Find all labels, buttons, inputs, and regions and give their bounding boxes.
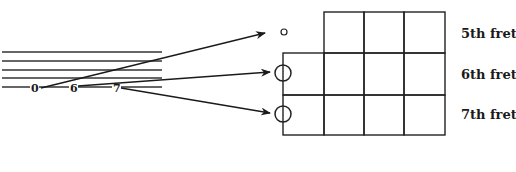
- fret-cell: [404, 95, 445, 135]
- tab-fret-number-6: 6: [70, 82, 78, 95]
- fret-cell: [324, 95, 364, 135]
- fret-label-6th: 6th fret: [461, 67, 516, 82]
- fret-cell: [364, 12, 404, 53]
- diagram-canvas: 0 6 7 5th fret 6th fret 7th fret: [0, 0, 516, 172]
- open-string-marker-icon: [281, 29, 287, 35]
- mapping-arrows: [41, 33, 270, 113]
- tab-fret-number-0: 0: [31, 82, 39, 95]
- fret-cell: [364, 53, 404, 95]
- fret-cell: [324, 53, 364, 95]
- fretboard-grid: [283, 12, 445, 135]
- fret-cell: [404, 53, 445, 95]
- fret-cell: [324, 12, 364, 53]
- fret-cell: [364, 95, 404, 135]
- fret-label-7th: 7th fret: [461, 107, 516, 122]
- arrow-6-to-6th: [78, 72, 270, 86]
- fret-label-5th: 5th fret: [461, 26, 516, 41]
- fret-cell: [404, 12, 445, 53]
- arrow-7-to-7th: [121, 88, 270, 113]
